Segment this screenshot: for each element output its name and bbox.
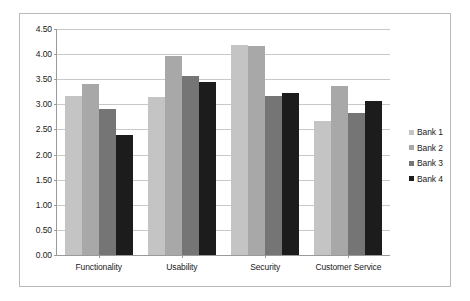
legend-item-label: Bank 4 — [417, 174, 443, 184]
y-axis-tick-label: 1.50 — [36, 175, 52, 185]
legend-item-label: Bank 3 — [417, 158, 443, 168]
x-axis-category-label: Functionality — [75, 262, 121, 272]
y-axis-tick-label: 3.00 — [36, 99, 52, 109]
x-axis-tick-mark — [265, 255, 266, 258]
legend-item[interactable]: Bank 2 — [409, 143, 443, 153]
bar-group: Customer Service — [307, 29, 390, 255]
bar — [331, 86, 348, 255]
plot-area: 4.504.003.503.002.502.001.501.000.500.00… — [56, 29, 390, 256]
chart-frame: 4.504.003.503.002.502.001.501.000.500.00… — [19, 13, 451, 287]
legend-item[interactable]: Bank 4 — [409, 174, 443, 184]
bar — [165, 56, 182, 255]
y-axis-tick-mark — [54, 255, 57, 256]
y-axis-tick-label: 2.50 — [36, 124, 52, 134]
chart-legend: Bank 1Bank 2Bank 3Bank 4 — [409, 127, 443, 184]
bar — [116, 135, 133, 255]
legend-swatch-icon — [409, 130, 414, 135]
y-axis-tick-label: 4.00 — [36, 49, 52, 59]
y-axis-tick-label: 3.50 — [36, 74, 52, 84]
legend-swatch-icon — [409, 161, 414, 166]
legend-item-label: Bank 2 — [417, 143, 443, 153]
bar-groups: FunctionalityUsabilitySecurityCustomer S… — [57, 29, 390, 255]
y-axis-tick-label: 1.00 — [36, 200, 52, 210]
bar — [199, 82, 216, 255]
bar — [314, 121, 331, 255]
x-axis-tick-mark — [99, 255, 100, 258]
y-axis-tick-label: 0.00 — [36, 250, 52, 260]
bar — [282, 93, 299, 255]
x-axis-category-label: Usability — [166, 262, 197, 272]
bar-group: Usability — [140, 29, 223, 255]
bar — [265, 96, 282, 255]
y-axis-tick-label: 2.00 — [36, 150, 52, 160]
legend-swatch-icon — [409, 176, 414, 181]
bar — [231, 45, 248, 255]
chart-plot-wrapper: 4.504.003.503.002.502.001.501.000.500.00… — [20, 14, 450, 286]
bar — [65, 96, 82, 255]
bar — [365, 101, 382, 255]
bar — [182, 76, 199, 255]
x-axis-category-label: Customer Service — [315, 262, 381, 272]
legend-item[interactable]: Bank 3 — [409, 158, 443, 168]
bar — [99, 109, 116, 255]
bar — [348, 113, 365, 255]
bar — [248, 46, 265, 255]
bar-group: Functionality — [57, 29, 140, 255]
y-axis-tick-label: 0.50 — [36, 225, 52, 235]
x-axis-tick-mark — [348, 255, 349, 258]
bar — [82, 84, 99, 255]
y-axis-tick-label: 4.50 — [36, 24, 52, 34]
bar — [148, 97, 165, 255]
legend-item-label: Bank 1 — [417, 127, 443, 137]
legend-swatch-icon — [409, 145, 414, 150]
legend-item[interactable]: Bank 1 — [409, 127, 443, 137]
bar-group: Security — [224, 29, 307, 255]
x-axis-category-label: Security — [250, 262, 280, 272]
x-axis-tick-mark — [182, 255, 183, 258]
